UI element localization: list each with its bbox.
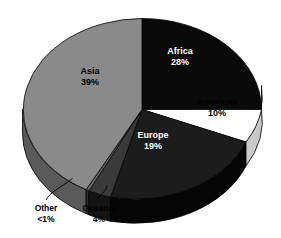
callout-label-other: Other <1% bbox=[35, 203, 58, 224]
slice-label-asia-value: 39% bbox=[81, 77, 99, 87]
slice-label-africa-value: 28% bbox=[171, 57, 189, 67]
slice-top-africa[interactable] bbox=[142, 19, 262, 110]
pie-chart-svg: Africa 28% Americas 10% Europe 19% Asia … bbox=[0, 0, 281, 238]
slice-label-asia: Asia 39% bbox=[80, 66, 100, 87]
callout-label-other-value: <1% bbox=[37, 214, 55, 224]
callout-label-other-name: Other bbox=[35, 203, 58, 213]
slice-label-europe-name: Europe bbox=[137, 130, 168, 140]
slice-label-europe-value: 19% bbox=[144, 141, 162, 151]
callout-label-oceania-value: 4% bbox=[93, 214, 106, 224]
slice-label-asia-name: Asia bbox=[80, 66, 100, 76]
callout-label-oceania-name: Oceania bbox=[82, 203, 115, 213]
slice-label-americas-name: Americas bbox=[197, 97, 238, 107]
slice-label-americas-value: 10% bbox=[208, 108, 226, 118]
slice-label-africa-name: Africa bbox=[167, 46, 194, 56]
pie-chart: Africa 28% Americas 10% Europe 19% Asia … bbox=[0, 0, 281, 238]
